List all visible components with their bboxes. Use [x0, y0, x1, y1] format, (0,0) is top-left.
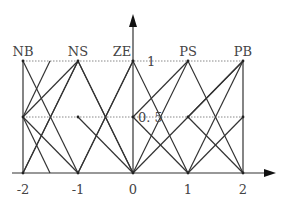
y-label-1: 1 — [147, 55, 155, 68]
diag-g — [133, 61, 188, 117]
label-pb: PB — [234, 45, 252, 58]
x-tick-1: 1 — [184, 183, 192, 196]
x-tick-0: 0 — [129, 183, 137, 196]
x-tick-2: 2 — [239, 183, 247, 196]
x-axis-arrow-icon — [264, 169, 276, 177]
diag-left-upper — [23, 117, 78, 173]
label-ps: PS — [179, 45, 197, 58]
label-ns: NS — [68, 45, 88, 58]
diag-h — [78, 117, 133, 173]
label-ze: ZE — [113, 45, 132, 58]
y-axis-arrow-icon — [129, 14, 137, 27]
label-nb: NB — [13, 45, 34, 58]
y-label-0-5: 0. 5 — [138, 111, 163, 124]
diag-b — [23, 61, 78, 117]
membership-function-diagram — [0, 0, 283, 204]
x-tick-neg1: -1 — [72, 183, 85, 196]
x-tick-neg2: -2 — [17, 183, 30, 196]
